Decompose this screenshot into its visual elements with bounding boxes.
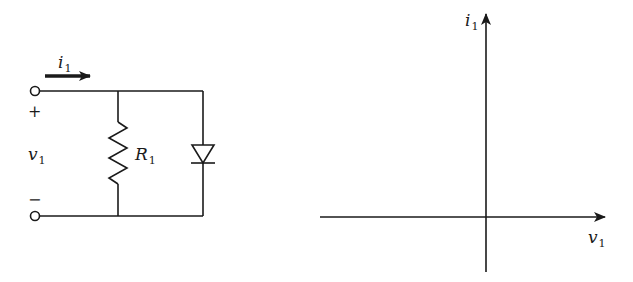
voltage-label: v1 [28,144,46,167]
terminal-top [31,87,40,96]
circuit [31,76,216,221]
diode-icon [191,91,215,216]
y-axis-label: i1 [465,10,478,33]
resistor-icon [109,91,127,216]
resistor-label: R1 [134,144,156,167]
plus-sign: + [28,102,41,121]
figure: i1 + v1 − R1 i1 v1 [0,0,633,282]
x-axis-label: v1 [588,227,606,250]
terminal-bottom [31,212,40,221]
minus-sign: − [28,190,41,209]
graph-axes [320,14,605,272]
current-label: i1 [58,52,71,75]
